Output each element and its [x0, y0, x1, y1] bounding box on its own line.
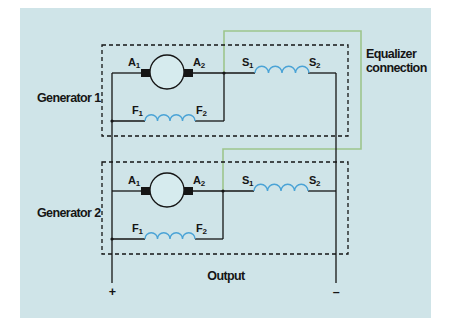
terminal-f1-label: F1	[132, 104, 143, 118]
equalizer-connection-line	[223, 31, 361, 191]
terminal-a2-label: A2	[193, 174, 206, 188]
terminal-f2-label: F2	[196, 104, 207, 118]
terminal-a1-label: A1	[128, 56, 141, 70]
equalizer-label-line1: Equalizer	[366, 47, 417, 61]
armature-icon	[150, 173, 184, 207]
negative-terminal-label: –	[333, 285, 340, 299]
series-field-coil-icon	[255, 66, 309, 73]
brush-right-icon	[184, 187, 193, 195]
shunt-field-coil-icon	[145, 115, 195, 121]
equalizer-label-line2: connection	[366, 61, 427, 75]
output-label: Output	[207, 269, 246, 283]
terminal-f1-label: F1	[132, 222, 143, 236]
terminal-a1-label: A1	[128, 174, 141, 188]
terminal-f2-label: F2	[196, 222, 207, 236]
circuit-diagram: Generator 1 Generator 2 A1 A2 F1 F2 S1 S…	[0, 0, 451, 331]
terminal-a2-label: A2	[193, 56, 206, 70]
terminal-s1-label: S1	[242, 174, 254, 188]
brush-left-icon	[141, 187, 150, 195]
brush-left-icon	[141, 69, 150, 77]
terminal-s2-label: S2	[309, 56, 321, 70]
positive-terminal-label: +	[109, 285, 116, 299]
armature-icon	[150, 55, 184, 89]
terminal-s2-label: S2	[309, 174, 321, 188]
generator-1-label: Generator 1	[37, 91, 101, 105]
shunt-field-coil-icon	[145, 233, 195, 239]
brush-right-icon	[184, 69, 193, 77]
series-field-coil-icon	[254, 184, 308, 191]
terminal-s1-label: S1	[242, 56, 254, 70]
generator-2-label: Generator 2	[37, 206, 101, 220]
